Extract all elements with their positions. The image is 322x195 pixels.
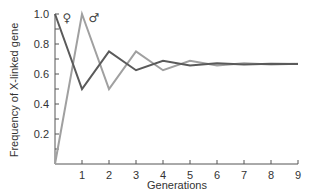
y-tick-label: 0.2 bbox=[34, 128, 49, 140]
x-tick-label: 6 bbox=[214, 169, 220, 181]
female-symbol-label: ♀ bbox=[63, 11, 72, 25]
y-axis-title: Frequency of X-linked gene bbox=[8, 23, 20, 158]
x-tick-label: 8 bbox=[268, 169, 274, 181]
x-tick-label: 1 bbox=[79, 169, 85, 181]
x-axis-title: Generations bbox=[147, 179, 207, 191]
plot-area: 0.20.40.60.81.0123456789♀♂ bbox=[34, 8, 301, 181]
male-symbol-label: ♂ bbox=[89, 11, 100, 25]
x-tick-label: 9 bbox=[295, 169, 301, 181]
x-tick-label: 7 bbox=[241, 169, 247, 181]
y-tick-label: 0.6 bbox=[34, 68, 49, 80]
series-line-male bbox=[55, 14, 298, 164]
y-tick-label: 1.0 bbox=[34, 8, 49, 20]
x-tick-label: 2 bbox=[106, 169, 112, 181]
y-tick-label: 0.8 bbox=[34, 38, 49, 50]
series-line-female bbox=[55, 14, 298, 89]
y-tick-label: 0.4 bbox=[34, 98, 49, 110]
chart-figure: 0.20.40.60.81.0123456789♀♂ Frequency of … bbox=[0, 0, 322, 195]
x-tick-label: 3 bbox=[133, 169, 139, 181]
